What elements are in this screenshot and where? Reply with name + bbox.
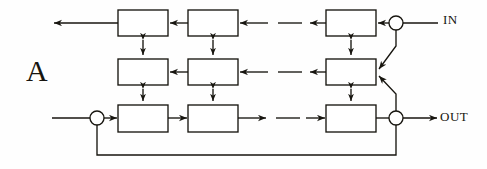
figure-panel: A IN OUT bbox=[0, 0, 487, 169]
middle-block-1 bbox=[118, 59, 168, 85]
input-label: IN bbox=[443, 13, 458, 26]
top-block-n bbox=[326, 10, 376, 36]
bottom-block-n bbox=[326, 105, 376, 132]
bottom-block-2 bbox=[188, 105, 238, 132]
feedback-summing-junction bbox=[90, 111, 104, 125]
top-block-1 bbox=[118, 10, 168, 36]
bottom-block-1 bbox=[118, 105, 168, 132]
input-summing-junction bbox=[389, 16, 403, 30]
panel-label: A bbox=[26, 56, 48, 86]
top-block-2 bbox=[188, 10, 238, 36]
block-diagram bbox=[0, 0, 487, 169]
output-label: OUT bbox=[440, 110, 468, 123]
middle-block-2 bbox=[188, 59, 238, 85]
feedback-top-to-middle bbox=[379, 30, 396, 69]
output-summing-junction bbox=[389, 111, 403, 125]
feedback-bottom-to-middle bbox=[379, 76, 396, 111]
middle-block-n bbox=[326, 59, 376, 85]
